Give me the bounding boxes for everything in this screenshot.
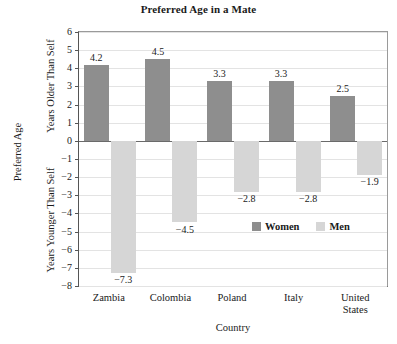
- y-axis-tick: [75, 123, 79, 124]
- y-axis-tick: [75, 159, 79, 160]
- bar-women: [145, 59, 170, 141]
- y-axis-tick-label: −5: [61, 227, 72, 237]
- bar-value-label: 2.5: [320, 83, 365, 94]
- plot-area: 6543210−1−2−3−4−5−6−7−84.2−7.34.5−4.53.3…: [79, 32, 387, 286]
- gridline: [79, 32, 387, 33]
- y-axis-tick: [75, 213, 79, 214]
- y-axis-title: Preferred Age: [11, 97, 25, 207]
- y-axis-tick: [75, 250, 79, 251]
- chart-title: Preferred Age in a Mate: [0, 3, 397, 15]
- y-axis-tick-label: −3: [61, 190, 72, 200]
- bar-value-label: 4.2: [74, 52, 119, 63]
- bar-women: [84, 65, 109, 141]
- x-axis-title: Country: [78, 322, 388, 333]
- y-axis-tick-label: −1: [61, 154, 72, 164]
- y-axis-tick: [75, 105, 79, 106]
- bar-women: [269, 81, 294, 141]
- chart-legend: WomenMen: [252, 221, 350, 232]
- legend-item-men: Men: [316, 221, 349, 232]
- y-axis-tick-label: 2: [67, 100, 72, 110]
- bar-women: [207, 81, 232, 141]
- bar-value-label: −4.5: [160, 224, 209, 235]
- y-axis-tick-label: −4: [61, 208, 72, 218]
- bar-value-label: 3.3: [259, 68, 304, 79]
- y-axis-tick-label: 4: [67, 63, 72, 73]
- y-axis-tick-label: −6: [61, 245, 72, 255]
- plot-frame: 6543210−1−2−3−4−5−6−7−84.2−7.34.5−4.53.3…: [78, 31, 388, 287]
- bar-value-label: 3.3: [197, 68, 242, 79]
- bar-men: [357, 141, 382, 175]
- gridline: [79, 50, 387, 51]
- x-axis-tick-label: United States: [324, 292, 386, 316]
- y-axis-tick: [75, 232, 79, 233]
- y-axis-tick-label: −2: [61, 172, 72, 182]
- x-axis-tick-label: Italy: [263, 292, 325, 304]
- y-axis-tick-label: 1: [67, 118, 72, 128]
- x-axis-tick-label: Zambia: [78, 292, 140, 304]
- y-axis-caption-lower: Years Younger Than Self: [44, 150, 58, 290]
- y-axis-tick-label: 0: [67, 136, 72, 146]
- bar-value-label: 4.5: [135, 46, 180, 57]
- y-axis-tick: [75, 195, 79, 196]
- legend-label: Women: [265, 221, 299, 232]
- legend-item-women: Women: [252, 221, 299, 232]
- bar-men: [234, 141, 259, 192]
- y-axis-tick-label: 3: [67, 81, 72, 91]
- y-axis-tick-label: −7: [61, 263, 72, 273]
- bar-value-label: −2.8: [222, 193, 271, 204]
- bar-value-label: −2.8: [284, 193, 333, 204]
- legend-label: Men: [329, 221, 349, 232]
- bar-women: [330, 96, 355, 141]
- legend-swatch-icon: [316, 222, 325, 231]
- x-axis-tick-label: Colombia: [140, 292, 202, 304]
- bar-value-label: −7.3: [99, 274, 148, 285]
- y-axis-tick-label: 6: [67, 27, 72, 37]
- bar-men: [296, 141, 321, 192]
- y-axis-tick: [75, 32, 79, 33]
- y-axis-tick: [75, 68, 79, 69]
- y-axis-caption-upper: Years Older Than Self: [44, 24, 58, 148]
- chart-container: Preferred Age in a Mate Preferred Age Ye…: [0, 0, 397, 344]
- legend-swatch-icon: [252, 222, 261, 231]
- y-axis-tick-label: −8: [61, 281, 72, 291]
- bar-value-label: −1.9: [345, 176, 394, 187]
- y-axis-tick: [75, 141, 79, 142]
- y-axis-tick-label: 5: [67, 45, 72, 55]
- y-axis-tick: [75, 268, 79, 269]
- gridline: [79, 286, 387, 287]
- x-axis-tick-label: Poland: [201, 292, 263, 304]
- y-axis-tick: [75, 86, 79, 87]
- y-axis-tick: [75, 286, 79, 287]
- y-axis-tick: [75, 177, 79, 178]
- bar-men: [172, 141, 197, 223]
- bar-men: [111, 141, 136, 273]
